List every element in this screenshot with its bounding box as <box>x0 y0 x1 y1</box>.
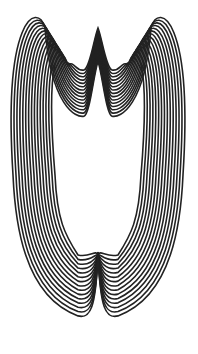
nested-curves-figure <box>0 0 198 354</box>
concentric-curves-drawing <box>0 0 198 354</box>
